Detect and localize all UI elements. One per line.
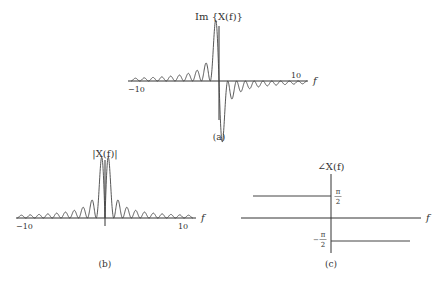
figure-canvas: Im {X(f)} f −10 10 (a) |X(f)| f −10 10 (… [0, 0, 444, 284]
tick-lower-den: 2 [321, 241, 325, 249]
tick-left-a: −10 [128, 85, 145, 94]
panel-a: Im {X(f)} f −10 10 (a) [128, 11, 319, 142]
caption-c: (c) [325, 259, 337, 269]
xlabel-b: f [200, 212, 207, 223]
tick-right-b: 10 [178, 222, 188, 231]
tick-left-b: −10 [16, 222, 33, 231]
tick-right-a: 10 [291, 71, 301, 80]
panel-c: ∠X(f) f π 2 − π 2 (c) [241, 161, 432, 269]
ylabel-b: |X(f)| [92, 148, 117, 160]
tick-upper-den: 2 [336, 198, 340, 206]
panel-b: |X(f)| f −10 10 (b) [16, 148, 207, 269]
tick-upper-num: π [336, 188, 341, 196]
tick-lower-num: π [321, 231, 326, 239]
caption-a: (a) [213, 132, 225, 142]
ylabel-c: ∠X(f) [317, 161, 344, 172]
tick-lower-sign: − [313, 236, 319, 244]
ylabel-a: Im {X(f)} [195, 11, 243, 22]
caption-b: (b) [99, 259, 112, 269]
xlabel-c: f [425, 212, 432, 223]
xlabel-a: f [312, 75, 319, 86]
